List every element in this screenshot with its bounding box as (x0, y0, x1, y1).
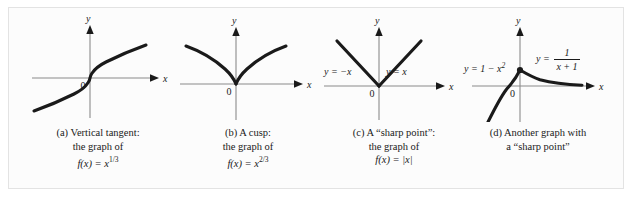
panel-b: x y 0 (b) A cusp: the graph of f(x) = x2… (172, 10, 324, 186)
caption-line-1: (c) A “sharp point”: (318, 126, 470, 140)
x-axis-arrow (150, 74, 159, 81)
panel-d-caption: (d) Another graph with a “sharp point” (462, 126, 614, 153)
origin-label: 0 (227, 86, 232, 97)
panel-c-caption: (c) A “sharp point”: the graph of f(x) =… (318, 126, 470, 167)
x-axis-label: x (598, 81, 604, 92)
caption-line-2: a “sharp point” (462, 140, 614, 154)
curve-parabola (488, 70, 520, 122)
y-axis-label: y (515, 15, 521, 26)
caption-formula: f(x) = x (77, 158, 109, 169)
x-axis-label: x (448, 81, 454, 92)
caption-line-1: (d) Another graph with (462, 126, 614, 140)
origin-label: 0 (370, 88, 375, 99)
caption-line-3: f(x) = |x| (318, 153, 470, 167)
panel-c-plot: y = −x y = x x y 0 (318, 10, 470, 122)
x-axis-arrow (294, 80, 303, 87)
caption-line-1: (a) Vertical tangent: (22, 126, 174, 140)
curve-label-hyperbola-numerator: 1 (565, 47, 570, 58)
panel-d-plot: y = 1 − x2 y = 1 x + 1 x y 0 (462, 10, 614, 122)
caption-formula: f(x) = x (227, 158, 259, 169)
sharp-point-marker (517, 67, 523, 73)
panel-a: x y 0 (a) Vertical tangent: the graph of… (22, 10, 174, 186)
curve-label-parabola-exponent: 2 (501, 61, 505, 70)
curve-hyperbola (520, 70, 582, 85)
panel-b-plot: x y 0 (172, 10, 324, 122)
x-axis-arrow (586, 82, 595, 89)
caption-line-3: f(x) = x2/3 (172, 153, 324, 170)
origin-label: 0 (81, 80, 86, 91)
panel-a-caption: (a) Vertical tangent: the graph of f(x) … (22, 126, 174, 170)
curve-label-hyperbola-denominator: x + 1 (555, 61, 577, 72)
y-axis-label: y (374, 15, 380, 26)
panel-c: y = −x y = x x y 0 (c) A “sharp point”: … (318, 10, 470, 186)
curve-label-hyperbola-lead: y = (535, 53, 550, 64)
curve-cusp-right (236, 46, 286, 84)
caption-line-1: (b) A cusp: (172, 126, 324, 140)
curve-abs-left (337, 41, 379, 86)
caption-exponent: 2/3 (259, 155, 269, 164)
panel-d: y = 1 − x2 y = 1 x + 1 x y 0 (d) Another… (462, 10, 614, 186)
x-axis-label: x (306, 79, 312, 90)
caption-line-2: the graph of (22, 140, 174, 154)
caption-exponent: 1/3 (109, 155, 119, 164)
panel-b-caption: (b) A cusp: the graph of f(x) = x2/3 (172, 126, 324, 170)
y-axis-arrow (375, 27, 382, 36)
x-axis-label: x (162, 73, 168, 84)
y-axis-arrow (516, 27, 523, 36)
curve-cusp-left (186, 46, 236, 84)
curve-label-negative-x: y = −x (323, 66, 352, 77)
x-axis-arrow (436, 82, 445, 89)
y-axis-arrow (232, 27, 239, 36)
curve-label-parabola-text: y = 1 − x (463, 63, 502, 74)
y-axis-label: y (85, 13, 91, 24)
curve-label-parabola: y = 1 − x2 (463, 61, 505, 74)
figure-container: x y 0 (a) Vertical tangent: the graph of… (0, 0, 634, 199)
caption-line-2: the graph of (318, 140, 470, 154)
curve-label-positive-x: y = x (385, 66, 407, 77)
curve-abs-right (379, 41, 421, 86)
caption-line-2: the graph of (172, 140, 324, 154)
caption-line-3: f(x) = x1/3 (22, 153, 174, 170)
caption-formula: f(x) = |x| (375, 154, 412, 165)
y-axis-arrow (86, 25, 93, 34)
y-axis-label: y (231, 15, 237, 26)
panel-a-plot: x y 0 (22, 10, 174, 122)
origin-label: 0 (510, 88, 515, 99)
